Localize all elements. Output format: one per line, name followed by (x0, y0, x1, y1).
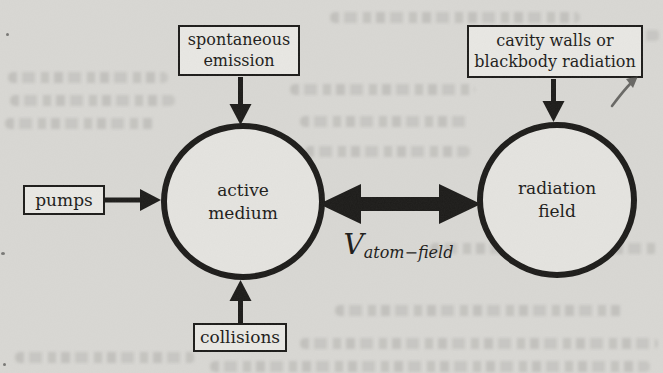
coupling-subscript: atom−field (364, 243, 454, 262)
page-bleedthrough-texture (5, 118, 155, 129)
page-bleedthrough-texture (305, 146, 470, 157)
active-medium-node: active medium (161, 123, 325, 280)
radiation-field-node: radiation field (477, 122, 637, 278)
page-bleedthrough-texture (335, 305, 623, 316)
collisions-box: collisions (193, 323, 287, 352)
pumps-label: pumps (35, 189, 93, 211)
pumps-box: pumps (23, 185, 105, 215)
active-medium-label-line2: medium (208, 202, 278, 225)
arrow-collisions-to-active-medium-icon (228, 280, 253, 323)
radiation-field-label-line1: radiation (518, 177, 596, 200)
page-bleedthrough-texture (300, 116, 470, 127)
coupling-symbol: V (344, 228, 363, 261)
cavity-walls-box: cavity walls or blackbody radiation (467, 25, 643, 78)
arrow-spontaneous-to-active-medium-icon (228, 77, 253, 125)
page-bleedthrough-texture (10, 95, 175, 106)
cavity-walls-label-line1: cavity walls or (496, 31, 613, 52)
double-arrow-atom-field-coupling-icon (319, 183, 481, 225)
page-bleedthrough-texture (330, 12, 580, 23)
textbook-figure: spontaneous emission cavity walls or bla… (0, 0, 663, 373)
page-bleedthrough-texture (8, 72, 168, 83)
scan-speck (1, 252, 5, 255)
coupling-label: Vatom−field (336, 228, 460, 266)
page-bleedthrough-texture (210, 361, 650, 372)
arrow-pumps-to-active-medium-icon (104, 188, 161, 212)
spontaneous-emission-label-line1: spontaneous (188, 30, 290, 51)
stray-arrow-mark-icon (604, 72, 644, 112)
scan-speck (3, 363, 6, 366)
page-bleedthrough-texture (300, 338, 658, 349)
arrow-cavity-to-radiation-field-icon (541, 79, 566, 122)
radiation-field-label-line2: field (538, 200, 576, 223)
cavity-walls-label-line2: blackbody radiation (474, 52, 635, 73)
scan-speck (6, 33, 9, 36)
page-bleedthrough-texture (290, 84, 475, 95)
active-medium-label-line1: active (217, 179, 269, 202)
collisions-label: collisions (200, 326, 280, 348)
spontaneous-emission-box: spontaneous emission (178, 25, 300, 76)
page-bleedthrough-texture (15, 352, 195, 363)
spontaneous-emission-label-line2: emission (203, 51, 274, 72)
